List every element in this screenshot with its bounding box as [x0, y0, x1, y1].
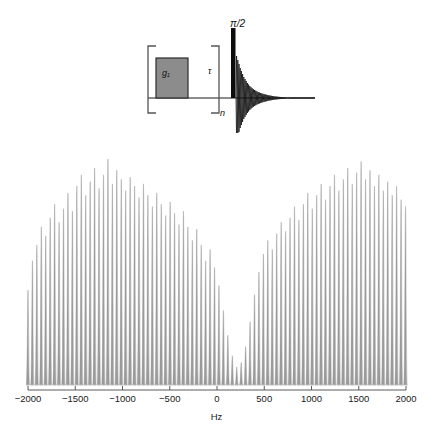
spectrum-peak	[324, 200, 327, 385]
gradient-pulse-label: g₁	[162, 68, 170, 78]
spectrum-peak	[120, 179, 123, 385]
spectrum-peak	[88, 182, 91, 385]
spectrum-peak	[386, 182, 389, 385]
spectrum-peak	[142, 184, 145, 385]
spectrum-peak	[382, 191, 385, 385]
spectrum-peak	[302, 204, 305, 385]
spectrum-peak	[399, 200, 402, 385]
spectrum-peak	[71, 211, 74, 385]
repeat-bracket-right	[211, 46, 219, 113]
repeat-count-label: n	[220, 108, 225, 118]
spectrum-peak	[328, 186, 331, 385]
spectrum-peak	[373, 186, 376, 385]
repeat-bracket-left	[148, 46, 156, 113]
spectrum-peak	[115, 170, 118, 385]
spectrum-peak	[271, 249, 274, 385]
spectrum-peak	[31, 261, 34, 385]
spectrum-peak	[155, 193, 158, 385]
delay-label: τ	[208, 66, 211, 76]
spectrum-peak	[288, 218, 291, 385]
spectrum-peak	[62, 209, 65, 385]
spectrum-peak	[40, 227, 43, 385]
axis-tick-label: −1500	[62, 393, 89, 404]
spectrum-peak	[204, 261, 207, 385]
spectrum-peak	[253, 295, 256, 385]
spectrum-peak	[404, 206, 407, 385]
axis-tick-label: −500	[159, 393, 180, 404]
spectrum-peak	[248, 322, 251, 385]
spectrum-peak	[315, 195, 318, 385]
spectrum-peak	[195, 229, 198, 385]
fid-trace	[236, 56, 315, 133]
spectrum-peak	[106, 159, 109, 385]
spectrum-peak	[293, 206, 296, 385]
spectrum-peak	[284, 231, 287, 385]
spectrum-peak	[342, 179, 345, 385]
spectrum-peak	[200, 245, 203, 385]
spectrum-peak	[319, 184, 322, 385]
spectrum-peak	[306, 193, 309, 385]
spectrum-peak	[364, 179, 367, 385]
spectrum-peak	[235, 367, 238, 385]
spectrum-peak	[80, 175, 83, 385]
axis-tick-label: 1000	[301, 393, 322, 404]
axis-tick-label: 0	[214, 393, 219, 404]
spectrum-peak	[35, 245, 38, 385]
spectrum-peak	[186, 227, 189, 385]
spectrum-peak	[57, 222, 60, 385]
spectrum-peak	[208, 249, 211, 385]
spectrum-peak	[226, 335, 229, 385]
spectrum-peak	[26, 290, 29, 385]
nmr-figure: π/2 τ n g₁ −2000−1500−1000−5000500100015…	[0, 0, 433, 446]
spectrum-peak	[151, 206, 154, 385]
spectrum-peak	[49, 218, 52, 385]
spectrum-peak	[84, 195, 87, 385]
spectrum-peak	[102, 175, 105, 385]
spectrum-peak	[213, 267, 216, 385]
spectrum-peak	[333, 175, 336, 385]
spectrum-peak	[297, 220, 300, 385]
spectrum-peak	[111, 184, 114, 385]
sideband-peaks	[26, 159, 408, 385]
spectrum-peak	[359, 161, 362, 385]
spectrum-peak	[311, 209, 314, 385]
spectrum-peak	[124, 191, 127, 385]
axis-tick-label: 1500	[348, 393, 369, 404]
spectrum-peak	[164, 216, 167, 386]
spectrum-peak	[168, 202, 171, 385]
gradient-pulse-block	[156, 58, 188, 98]
spectrum-peak	[53, 204, 56, 385]
pi-half-pulse-label: π/2	[230, 18, 245, 29]
spectrum-peak	[337, 191, 340, 385]
spectrum-peak	[93, 168, 96, 385]
spectrum-peak	[346, 168, 349, 385]
spectrum-peak	[239, 362, 242, 385]
axis-title-hz: Hz	[0, 411, 433, 422]
spectrum-peak	[266, 240, 269, 385]
spectrum-peak	[44, 236, 47, 385]
spectrum-panel: −2000−1500−1000−5000500100015002000 Hz	[0, 145, 433, 446]
spectrum-peak	[217, 286, 220, 385]
spectrum-peak	[222, 310, 225, 385]
spectrum-peak	[160, 204, 163, 385]
axis-tick-label: 500	[256, 393, 272, 404]
spectrum-peak	[182, 211, 185, 385]
spectrum-peak	[128, 177, 131, 385]
spectrum-peak	[75, 186, 78, 385]
spectrum-peak	[377, 175, 380, 385]
spectrum-peak	[351, 184, 354, 385]
spectrum-peak	[66, 193, 69, 385]
spectrum-peak	[177, 225, 180, 385]
spectrum-peak	[137, 197, 140, 385]
axis-tick-label: −2000	[15, 393, 42, 404]
spectrum-peak	[231, 356, 234, 385]
spectrum-svg: −2000−1500−1000−5000500100015002000	[0, 145, 433, 446]
spectrum-peak	[262, 254, 265, 385]
spectrum-peak	[279, 222, 282, 385]
frequency-axis: −2000−1500−1000−5000500100015002000	[15, 386, 417, 404]
spectrum-peak	[257, 272, 260, 385]
spectrum-peak	[191, 240, 194, 385]
axis-tick-label: −1000	[109, 393, 136, 404]
spectrum-peak	[355, 173, 358, 385]
spectrum-peak	[173, 213, 176, 385]
